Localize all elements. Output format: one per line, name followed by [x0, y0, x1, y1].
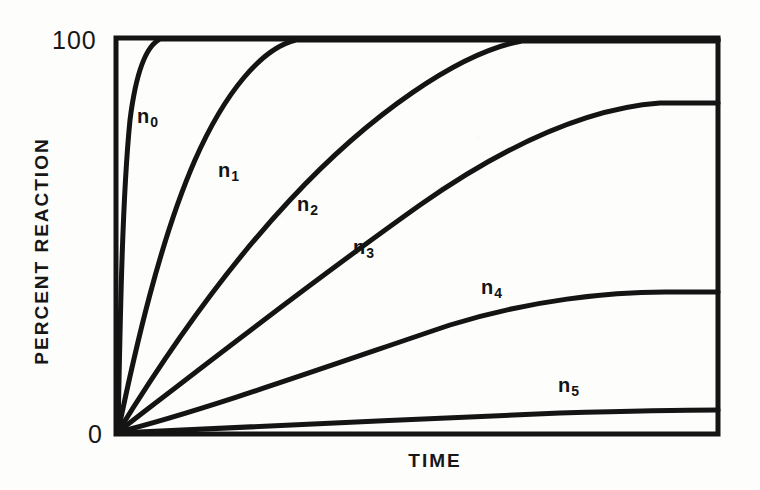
- curve-label-n2-sub: 2: [310, 202, 318, 218]
- curve-label-n3-base: n: [353, 236, 365, 258]
- curve-label-n1-base: n: [218, 159, 230, 181]
- curve-label-n0-sub: 0: [150, 114, 158, 130]
- curve-label-n4-sub: 4: [494, 285, 502, 301]
- curve-label-n2-base: n: [297, 193, 309, 215]
- curve-label-n0: n0: [137, 106, 157, 126]
- y-axis-tick-label-bottom: 0: [88, 420, 103, 449]
- y-axis-title: PERCENT REACTION: [31, 121, 53, 381]
- curve-label-n5-sub: 5: [571, 383, 579, 399]
- curve-n5: [118, 410, 718, 433]
- curve-label-n4-base: n: [481, 276, 493, 298]
- curve-label-n2: n2: [297, 194, 317, 214]
- curve-label-n3-sub: 3: [366, 245, 374, 261]
- x-axis-title: TIME: [355, 450, 515, 472]
- axis-frame: [116, 38, 718, 434]
- curve-n2: [118, 41, 718, 432]
- frame-box: [116, 38, 718, 434]
- curve-label-n4: n4: [481, 277, 501, 297]
- curve-label-n5: n5: [558, 375, 578, 395]
- curve-label-n0-base: n: [137, 105, 149, 127]
- curve-label-n3: n3: [353, 237, 373, 257]
- curve-n3: [118, 103, 718, 432]
- curve-group: [118, 39, 718, 433]
- y-axis-tick-label-top: 100: [52, 26, 97, 55]
- curve-label-n5-base: n: [558, 374, 570, 396]
- curve-label-n1-sub: 1: [231, 168, 239, 184]
- curve-n1: [118, 40, 718, 432]
- plot-area: [0, 0, 760, 490]
- figure-canvas: 100 0 PERCENT REACTION TIME n0 n1 n2 n3 …: [0, 0, 760, 490]
- curve-n0: [118, 39, 718, 432]
- curve-label-n1: n1: [218, 160, 238, 180]
